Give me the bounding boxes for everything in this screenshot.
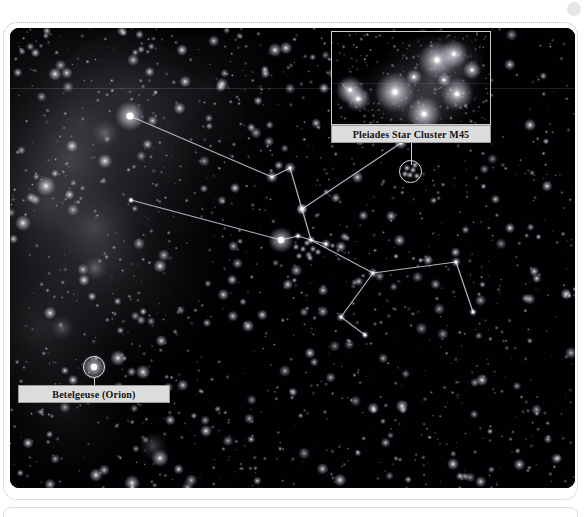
- pleiades-canvas: [332, 32, 490, 124]
- pleiades-inset-panel[interactable]: Pleiades Star Cluster M45: [331, 31, 491, 143]
- pleiades-inset-caption: Pleiades Star Cluster M45: [331, 125, 491, 143]
- corner-decoration-icon: [567, 2, 581, 16]
- betelgeuse-callout-label: Betelgeuse (Orion): [18, 385, 170, 403]
- page-root: Pleiades Star Cluster M45 Betelgeuse (Or…: [0, 0, 585, 517]
- next-panel-outline: [3, 507, 578, 517]
- betelgeuse-star-marker-icon[interactable]: [83, 356, 105, 378]
- pleiades-star-marker-icon[interactable]: [399, 160, 422, 183]
- pleiades-inset-image: [331, 31, 491, 125]
